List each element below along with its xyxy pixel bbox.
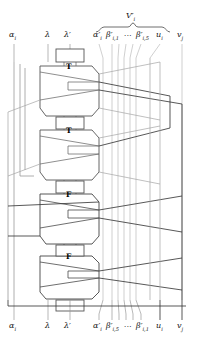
top-label-beta-i-1: β′i,1 — [106, 31, 119, 41]
brace-label-vi: V′i — [126, 12, 135, 22]
gadget-label-4: F — [66, 252, 71, 261]
gadget-label-3: F — [66, 190, 71, 199]
bottom-label-beta-i-5: β′i,5 — [106, 322, 119, 332]
bottom-stub-wires-dark — [8, 300, 186, 320]
bottom-label-beta-i-1: β′i,1 — [136, 322, 149, 332]
top-label-lambda-prime: λ′ — [64, 31, 71, 39]
gadget-label-1: T — [66, 62, 72, 71]
bottom-label-ellipsis: ··· — [124, 323, 132, 331]
connector-box-1 — [56, 49, 84, 62]
alpha-loop-wires — [8, 62, 34, 300]
top-label-v-j: vj — [177, 31, 183, 41]
vi-group-fan-wires — [99, 44, 182, 300]
bottom-label-lambda-prime: λ′ — [64, 322, 71, 330]
bottom-label-lambda: λ — [45, 322, 50, 330]
bottom-label-v-j: vj — [177, 322, 183, 332]
top-label-lambda: λ — [45, 31, 50, 39]
top-label-alpha-i: αi — [9, 31, 16, 41]
top-label-alpha-i-prime: α′i — [93, 31, 102, 41]
top-label-ellipsis: ··· — [124, 32, 132, 40]
top-label-beta-i-5: β′i,5 — [136, 31, 149, 41]
diagram-svg — [0, 0, 199, 345]
figure-canvas: V′i αi λ λ′ α′i β′i,1 ··· β′i,5 ui vj αi… — [0, 0, 199, 345]
bottom-label-alpha-i: αi — [9, 322, 16, 332]
bottom-label-u-i: ui — [156, 322, 163, 332]
bottom-label-alpha-i-prime: α′i — [93, 322, 102, 332]
top-label-u-i: ui — [156, 31, 163, 41]
gadget-label-2: T — [66, 126, 72, 135]
gadget-4-outline — [40, 256, 99, 299]
